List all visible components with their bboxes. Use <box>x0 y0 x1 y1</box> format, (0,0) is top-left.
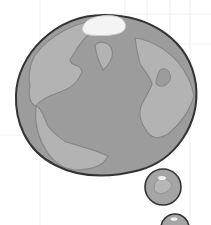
small-bubble-1 <box>145 169 181 205</box>
globe-icon <box>16 15 196 175</box>
small-bubble-2 <box>161 214 189 225</box>
globe-illustration <box>0 0 211 225</box>
